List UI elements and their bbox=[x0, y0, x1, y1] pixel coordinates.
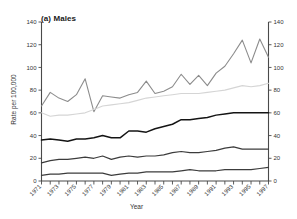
x-tick-label: 1987 bbox=[168, 183, 182, 197]
y-tick-label-right: 60 bbox=[274, 110, 281, 116]
y-tick-label-left: 80 bbox=[30, 87, 37, 93]
x-tick-label: 1995 bbox=[238, 183, 252, 197]
y-tick-label-left: 140 bbox=[26, 19, 37, 25]
y-tick-label-left: 40 bbox=[30, 133, 37, 139]
y-tick-label-right: 40 bbox=[274, 133, 281, 139]
y-tick-label-right: 20 bbox=[274, 155, 281, 161]
x-tick-label: 1989 bbox=[186, 183, 200, 197]
y-tick-label-right: 0 bbox=[274, 178, 278, 184]
line-series-series-5 bbox=[42, 167, 269, 175]
y-tick-label-left: 100 bbox=[26, 65, 37, 71]
x-tick-label: 1973 bbox=[46, 183, 60, 197]
x-tick-label: 1981 bbox=[116, 183, 130, 197]
y-tick-label-left: 120 bbox=[26, 42, 37, 48]
y-tick-label-left: 60 bbox=[30, 110, 37, 116]
x-tick-label: 1977 bbox=[81, 183, 95, 197]
x-tick-label: 1991 bbox=[203, 183, 217, 197]
chart-figure: (a) Males Rate per 100,000 Year 00202040… bbox=[0, 0, 297, 219]
line-series-series-1 bbox=[42, 39, 269, 112]
y-tick-label-right: 120 bbox=[274, 42, 285, 48]
x-tick-label: 1979 bbox=[98, 183, 112, 197]
y-tick-label-left: 20 bbox=[30, 155, 37, 161]
y-tick-label-right: 100 bbox=[274, 65, 285, 71]
line-chart-plot: 0020204040606080801001001201201401401971… bbox=[0, 0, 297, 219]
y-tick-label-right: 80 bbox=[274, 87, 281, 93]
x-tick-label: 1983 bbox=[133, 183, 147, 197]
line-series-series-4 bbox=[42, 147, 269, 163]
x-tick-label: 1993 bbox=[221, 183, 235, 197]
x-tick-label: 1971 bbox=[29, 183, 43, 197]
line-series-series-3 bbox=[42, 113, 269, 141]
line-series-series-2 bbox=[42, 83, 269, 116]
x-tick-label: 1975 bbox=[63, 183, 77, 197]
x-tick-label: 1985 bbox=[151, 183, 165, 197]
y-tick-label-left: 0 bbox=[33, 178, 37, 184]
y-tick-label-right: 140 bbox=[274, 19, 285, 25]
x-tick-label: 1997 bbox=[256, 183, 270, 197]
